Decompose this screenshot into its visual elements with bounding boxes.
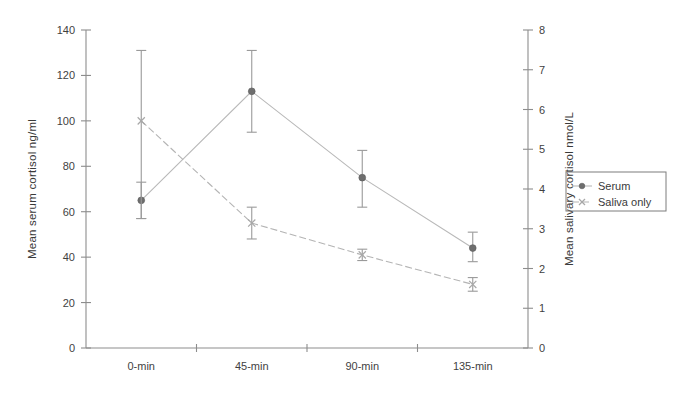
x-axis: 0-min45-min90-min135-min xyxy=(86,344,528,372)
right-tick-label: 5 xyxy=(539,143,545,155)
right-axis-title: Mean salivary cortisol nmol/L xyxy=(563,112,575,266)
legend: SerumSaliva only xyxy=(566,172,666,211)
right-tick-label: 6 xyxy=(539,104,545,116)
left-tick-label: 20 xyxy=(63,297,75,309)
dual-axis-line-chart: 020406080100120140 Mean serum cortisol n… xyxy=(0,0,679,393)
left-tick-label: 80 xyxy=(63,160,75,172)
right-tick-label: 1 xyxy=(539,302,545,314)
x-axis-label-90-min: 90-min xyxy=(345,360,379,372)
plot-series-group xyxy=(136,50,478,291)
legend-item-serum[interactable]: Serum xyxy=(572,180,630,192)
legend-label: Serum xyxy=(598,180,630,192)
x-axis-label-135-min: 135-min xyxy=(453,360,493,372)
right-tick-label: 3 xyxy=(539,223,545,235)
right-tick-label: 4 xyxy=(539,183,545,195)
data-point-serum xyxy=(248,88,255,95)
chart-container: 020406080100120140 Mean serum cortisol n… xyxy=(0,0,679,393)
left-axis: 020406080100120140 Mean serum cortisol n… xyxy=(26,24,91,354)
data-point-serum xyxy=(359,174,366,181)
right-tick-label: 0 xyxy=(539,342,545,354)
right-tick-label: 2 xyxy=(539,263,545,275)
x-axis-category-labels: 0-min45-min90-min135-min xyxy=(127,360,492,372)
right-axis: 012345678 Mean salivary cortisol nmol/L xyxy=(523,24,575,354)
series-line-serum xyxy=(141,91,473,248)
legend-label: Saliva only xyxy=(598,196,652,208)
right-tick-label: 7 xyxy=(539,64,545,76)
x-axis-label-0-min: 0-min xyxy=(127,360,155,372)
left-axis-title: Mean serum cortisol ng/ml xyxy=(26,119,38,259)
left-tick-label: 40 xyxy=(63,251,75,263)
legend-item-saliva-only[interactable]: Saliva only xyxy=(572,196,652,208)
series-line-saliva-only xyxy=(141,121,473,285)
left-tick-label: 0 xyxy=(69,342,75,354)
x-axis-label-45-min: 45-min xyxy=(235,360,269,372)
left-tick-label: 140 xyxy=(57,24,75,36)
right-axis-ticks: 012345678 xyxy=(523,24,545,354)
data-point-serum xyxy=(469,245,476,252)
error-bar xyxy=(136,50,146,218)
legend-items: SerumSaliva only xyxy=(572,180,652,208)
left-tick-label: 120 xyxy=(57,69,75,81)
left-tick-label: 100 xyxy=(57,115,75,127)
right-tick-label: 8 xyxy=(539,24,545,36)
left-tick-label: 60 xyxy=(63,206,75,218)
